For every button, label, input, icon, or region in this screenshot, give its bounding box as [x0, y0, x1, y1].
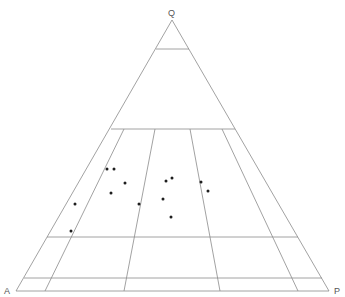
data-point [162, 198, 165, 201]
data-point [207, 190, 210, 193]
data-point [165, 180, 168, 183]
vertex-label-q: Q [168, 9, 175, 18]
field-boundary-line [222, 129, 298, 291]
field-boundary-line [124, 129, 155, 291]
data-point [138, 203, 141, 206]
sample-points [70, 168, 210, 233]
ternary-diagram [0, 0, 345, 297]
data-point [124, 182, 127, 185]
data-point [110, 192, 113, 195]
data-point [106, 168, 109, 171]
vertex-label-a: A [4, 287, 10, 296]
data-point [113, 168, 116, 171]
field-boundary-lines [45, 129, 298, 291]
data-point [171, 177, 174, 180]
data-point [200, 181, 203, 184]
vertex-label-p: P [334, 287, 340, 296]
data-point [170, 216, 173, 219]
field-boundary-line [190, 129, 220, 291]
data-point [70, 230, 73, 233]
data-point [74, 203, 77, 206]
field-boundary-line [45, 129, 124, 291]
horizontal-field-boundaries [24, 49, 322, 278]
triangle-outline [16, 20, 329, 291]
